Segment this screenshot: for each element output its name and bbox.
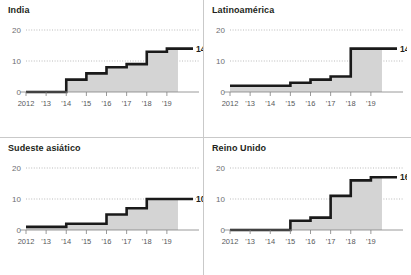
y-axis-tick-label: 0 <box>17 88 22 97</box>
x-axis-tick-label: '16 <box>102 237 112 246</box>
plot-area: 010202012'13'14'15'16'17'18'1914 <box>204 20 407 137</box>
plot-area: 010202012'13'14'15'16'17'18'1914 <box>0 20 203 137</box>
x-axis-tick-label: '18 <box>346 237 356 246</box>
panel-title: India <box>8 5 30 15</box>
step-area-fill <box>26 49 178 92</box>
y-axis-tick-label: 10 <box>12 57 21 66</box>
x-axis-tick-label: '18 <box>142 237 152 246</box>
y-axis-tick-label: 10 <box>12 195 21 204</box>
x-axis-tick-label: '15 <box>81 237 91 246</box>
x-axis-tick-label: '13 <box>245 99 255 108</box>
x-axis-tick-label: '17 <box>122 99 132 108</box>
x-axis-tick-label: '17 <box>326 99 336 108</box>
x-axis-tick-label: '13 <box>41 237 51 246</box>
panel-title: Sudeste asiático <box>8 143 81 153</box>
y-axis-tick-label: 0 <box>221 226 226 235</box>
x-axis-tick-label: '17 <box>122 237 132 246</box>
x-axis-tick-label: '16 <box>102 99 112 108</box>
x-axis-tick-label: '17 <box>326 237 336 246</box>
chart-panel-latinoamerica: Latinoamérica 010202012'13'14'15'16'17'1… <box>204 0 407 137</box>
x-axis-tick-label: '15 <box>285 237 295 246</box>
x-axis-tick-label: '19 <box>162 99 172 108</box>
x-axis-tick-label: 2012 <box>222 237 239 246</box>
x-axis-tick-label: 2012 <box>222 99 239 108</box>
y-axis-tick-label: 20 <box>12 164 21 173</box>
chart-panel-reino-unido: Reino Unido 010202012'13'14'15'16'17'18'… <box>204 138 407 275</box>
chart-panel-india: India 010202012'13'14'15'16'17'18'1914 <box>0 0 203 137</box>
y-axis-tick-label: 0 <box>17 226 22 235</box>
y-axis-tick-label: 0 <box>221 88 226 97</box>
x-axis-tick-label: '19 <box>366 237 376 246</box>
x-axis-tick-label: 2012 <box>18 99 35 108</box>
small-multiples-figure: India 010202012'13'14'15'16'17'18'1914 L… <box>0 0 411 275</box>
x-axis-tick-label: '13 <box>41 99 51 108</box>
chart-panel-sudeste-asiatico: Sudeste asiático 010202012'13'14'15'16'1… <box>0 138 203 275</box>
x-axis-tick-label: '18 <box>346 99 356 108</box>
y-axis-tick-label: 10 <box>216 195 225 204</box>
step-area-fill <box>26 199 178 230</box>
x-axis-tick-label: '19 <box>366 99 376 108</box>
y-axis-tick-label: 20 <box>12 26 21 35</box>
panel-title: Reino Unido <box>212 143 266 153</box>
plot-area: 010202012'13'14'15'16'17'18'1910 <box>0 158 203 275</box>
x-axis-tick-label: '14 <box>265 237 275 246</box>
x-axis-tick-label: '15 <box>81 99 91 108</box>
x-axis-tick-label: '16 <box>306 237 316 246</box>
end-value-label: 16 <box>400 172 407 182</box>
x-axis-tick-label: 2012 <box>18 237 35 246</box>
x-axis-tick-label: '14 <box>61 237 71 246</box>
x-axis-tick-label: '19 <box>162 237 172 246</box>
panel-title: Latinoamérica <box>212 5 274 15</box>
y-axis-tick-label: 20 <box>216 26 225 35</box>
plot-area: 010202012'13'14'15'16'17'18'1916 <box>204 158 407 275</box>
end-value-label: 10 <box>196 194 203 204</box>
y-axis-tick-label: 10 <box>216 57 225 66</box>
x-axis-tick-label: '14 <box>265 99 275 108</box>
x-axis-tick-label: '16 <box>306 99 316 108</box>
x-axis-tick-label: '18 <box>142 99 152 108</box>
x-axis-tick-label: '15 <box>285 99 295 108</box>
y-axis-tick-label: 20 <box>216 164 225 173</box>
step-area-fill <box>230 177 382 230</box>
end-value-label: 14 <box>400 44 407 54</box>
end-value-label: 14 <box>196 44 203 54</box>
x-axis-tick-label: '13 <box>245 237 255 246</box>
x-axis-tick-label: '14 <box>61 99 71 108</box>
